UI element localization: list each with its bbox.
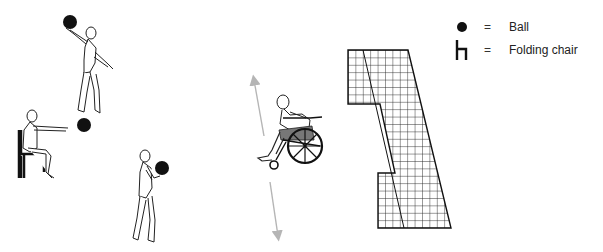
diagram-canvas xyxy=(0,0,603,252)
folding-chair-icon xyxy=(455,40,469,60)
ball-icon xyxy=(155,161,169,175)
exercise-diagram: = Ball = Folding chair xyxy=(0,0,603,252)
figure-standing-overhead xyxy=(63,15,113,113)
ball-icon xyxy=(77,118,91,132)
figure-wheelchair xyxy=(254,80,322,236)
legend-label-ball: Ball xyxy=(509,20,529,34)
legend-label-folding-chair: Folding chair xyxy=(509,43,578,57)
figure-seated-chair xyxy=(19,110,68,178)
arrow-up-icon xyxy=(254,80,264,136)
legend-equals: = xyxy=(484,43,491,57)
arrow-down-icon xyxy=(270,182,278,236)
legend-equals: = xyxy=(484,20,491,34)
ball-icon xyxy=(456,21,468,33)
wall-grid xyxy=(348,50,451,228)
ball-icon xyxy=(63,15,77,29)
figure-standing-chest xyxy=(133,150,169,242)
